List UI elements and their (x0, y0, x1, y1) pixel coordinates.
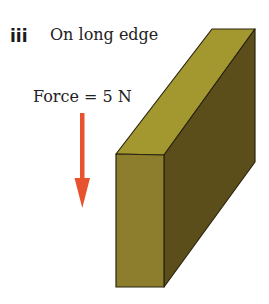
block-diagram (0, 0, 269, 304)
block-front-face (116, 154, 164, 287)
block-shape (116, 29, 255, 287)
force-arrow-icon (75, 113, 91, 208)
